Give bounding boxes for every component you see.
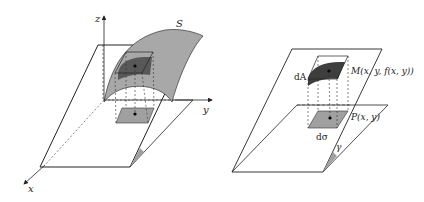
surface-label: S	[176, 18, 183, 29]
x-axis-label: x	[28, 183, 34, 194]
point-m-label: M(x, y, f(x, y))	[350, 66, 414, 76]
right-figure: dA M(x, y, f(x, y)) P(x, y) dσ γ	[232, 49, 414, 172]
x-axis	[24, 165, 45, 184]
y-axis-label: y	[202, 104, 209, 115]
projection-patch	[308, 111, 348, 128]
left-figure: z y x S	[24, 13, 212, 194]
plane-element-label: dσ	[316, 132, 328, 142]
z-axis-label: z	[94, 13, 101, 24]
surface-area-diagram: z y x S dA M(x, y, f(x, y)) P(x, y) dσ γ	[0, 0, 424, 202]
point-p-label: P(x, y)	[350, 112, 380, 122]
area-element-label: dA	[294, 72, 307, 82]
angle-label: γ	[336, 142, 342, 152]
